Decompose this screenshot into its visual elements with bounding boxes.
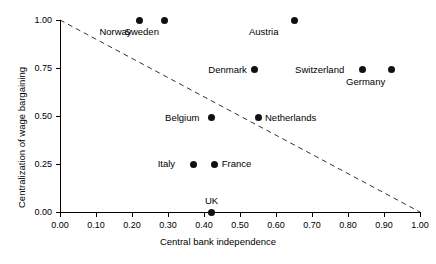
x-axis-tick	[420, 213, 421, 217]
x-axis-tick-label: 0.00	[40, 220, 80, 230]
y-axis-tick	[56, 20, 60, 21]
y-axis-tick	[56, 164, 60, 165]
y-axis-tick-label: 0.00	[22, 207, 52, 217]
y-axis-tick-label: 1.00	[22, 15, 52, 25]
data-point	[161, 17, 168, 24]
y-axis-title: Centralization of wage bargaining	[16, 67, 27, 208]
data-point-label: Germany	[346, 76, 385, 87]
data-point-label: Austria	[249, 26, 279, 37]
x-axis-tick-label: 0.40	[184, 220, 224, 230]
data-point-label: Denmark	[208, 64, 247, 75]
data-point-label: Netherlands	[265, 112, 316, 123]
data-point-label: Belgium	[165, 112, 199, 123]
data-point	[136, 17, 143, 24]
x-axis-tick	[168, 213, 169, 217]
x-axis-tick	[384, 213, 385, 217]
x-axis-tick	[348, 213, 349, 217]
x-axis-tick	[96, 213, 97, 217]
data-point	[359, 66, 366, 73]
x-axis-tick-label: 0.70	[292, 220, 332, 230]
data-point	[388, 66, 395, 73]
x-axis-title: Central bank independence	[0, 236, 436, 247]
data-point	[208, 114, 215, 121]
x-axis-tick-label: 0.50	[220, 220, 260, 230]
data-point-label: UK	[205, 195, 218, 206]
x-axis-tick-label: 0.30	[148, 220, 188, 230]
x-axis-tick	[276, 213, 277, 217]
y-axis-tick	[56, 68, 60, 69]
x-axis-tick-label: 0.20	[112, 220, 152, 230]
data-point	[255, 114, 262, 121]
scatter-plot: 0.000.250.500.751.00 0.000.100.200.300.4…	[0, 0, 436, 264]
x-axis-tick	[240, 213, 241, 217]
y-axis-line	[60, 20, 61, 213]
data-point	[291, 17, 298, 24]
x-axis-tick	[312, 213, 313, 217]
data-point	[208, 209, 215, 216]
data-point	[251, 66, 258, 73]
data-point-label: Italy	[158, 158, 175, 169]
data-point	[211, 161, 218, 168]
x-axis-tick-label: 0.10	[76, 220, 116, 230]
x-axis-tick-label: 0.60	[256, 220, 296, 230]
x-axis-tick	[132, 213, 133, 217]
x-axis-tick	[204, 213, 205, 217]
x-axis-tick-label: 0.80	[328, 220, 368, 230]
x-axis-tick-label: 1.00	[400, 220, 436, 230]
x-axis-tick	[60, 213, 61, 217]
data-point-label: Switzerland	[295, 64, 344, 75]
x-axis-tick-label: 0.90	[364, 220, 404, 230]
y-axis-tick	[56, 116, 60, 117]
data-point-label: Sweden	[125, 26, 159, 37]
data-point-label: France	[222, 158, 252, 169]
data-point	[190, 161, 197, 168]
